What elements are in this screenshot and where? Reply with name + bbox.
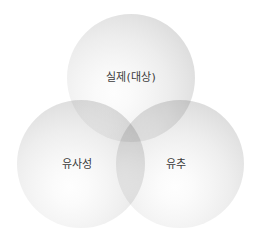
venn-diagram: 실제(대상) 유사성 유추 [0, 0, 262, 241]
venn-diagram-canvas: 실제(대상) 유사성 유추 [0, 0, 262, 241]
venn-label-bottom-right: 유추 [166, 158, 186, 171]
venn-label-top: 실제(대상) [106, 71, 156, 84]
venn-label-bottom-left: 유사성 [62, 158, 93, 171]
venn-circles-group [0, 0, 262, 241]
